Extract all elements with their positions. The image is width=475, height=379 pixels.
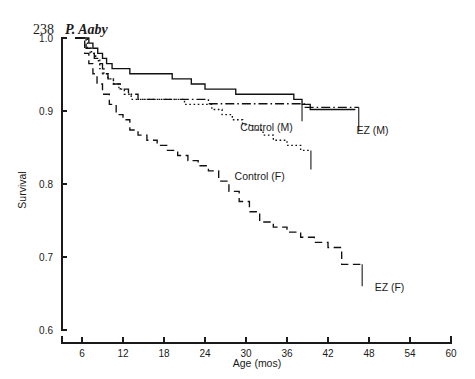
y-tick-label: 0.7 <box>39 252 53 263</box>
series-line-control-m <box>75 38 355 110</box>
series-line-ez-m <box>75 38 359 107</box>
y-tick-label: 0.6 <box>39 325 53 336</box>
y-tick-label: 1.0 <box>39 33 53 44</box>
x-tick-label: 36 <box>281 348 293 359</box>
y-axis-ticks: 0.60.70.80.91.0 <box>39 33 67 336</box>
x-tick-label: 42 <box>322 348 334 359</box>
x-tick-label: 12 <box>117 348 129 359</box>
curve-label-ez-m: EZ (M) <box>356 124 388 136</box>
x-tick-label: 60 <box>445 348 457 359</box>
curve-label-control-f: Control (F) <box>235 170 285 182</box>
x-tick-label: 18 <box>158 348 170 359</box>
x-axis-ticks: 6121824303642485460 <box>79 337 457 359</box>
chart-svg: 0.60.70.80.91.0 6121824303642485460 Cont… <box>0 0 475 379</box>
survival-chart: 0.60.70.80.91.0 6121824303642485460 Cont… <box>0 0 475 379</box>
series-line-ez-f <box>75 38 362 264</box>
curve-label-ez-f: EZ (F) <box>375 281 405 293</box>
x-tick-label: 48 <box>363 348 375 359</box>
x-axis-line <box>62 336 451 343</box>
curve-label-control-m: Control (M) <box>240 121 293 133</box>
curve-labels-group: Control (M)Control (F)EZ (M)EZ (F) <box>235 121 405 293</box>
series-group <box>75 38 362 264</box>
x-tick-label: 6 <box>79 348 85 359</box>
y-axis-title: Survival <box>16 171 28 208</box>
annotation-leaders-group <box>302 104 362 286</box>
y-tick-label: 0.8 <box>39 179 53 190</box>
y-tick-label: 0.9 <box>39 106 53 117</box>
x-tick-label: 24 <box>199 348 211 359</box>
x-tick-label: 54 <box>404 348 416 359</box>
x-axis-title: Age (mos) <box>233 357 281 369</box>
